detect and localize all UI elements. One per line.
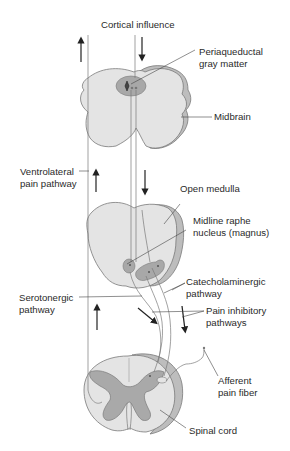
midbrain: [81, 66, 191, 149]
label-serotonergic-pathway: Serotonergic pathway: [19, 292, 73, 315]
label-catecholaminergic-pathway: Catecholaminergic pathway: [186, 276, 265, 299]
spinal-cord: [84, 354, 183, 434]
arrow-down-inhibitory: [182, 306, 185, 330]
medulla-body: [87, 202, 177, 288]
open-medulla: [87, 202, 184, 288]
leader-catecholaminergic-b: [172, 283, 185, 290]
label-spinal-cord: Spinal cord: [189, 425, 237, 437]
label-midbrain: Midbrain: [214, 111, 251, 123]
label-ventrolateral-pain-pathway: Ventrolateral pain pathway: [20, 166, 77, 189]
label-midline-raphe-nucleus: Midline raphe nucleus (magnus): [193, 215, 269, 238]
leader-serotonergic: [79, 296, 142, 297]
label-afferent-pain-fiber: Afferent pain fiber: [218, 375, 257, 398]
label-open-medulla: Open medulla: [180, 183, 240, 195]
label-periaqueductal-gray-matter: Periaqueductal gray matter: [199, 46, 263, 69]
dorsal-horn-synapse: [157, 377, 167, 383]
midline-raphe-nucleus: [123, 259, 135, 273]
label-pain-inhibitory-pathways: Pain inhibitory pathways: [206, 305, 266, 328]
label-cortical-influence: Cortical influence: [101, 19, 175, 31]
leader-pain-inhibitory-b: [182, 311, 204, 317]
leader-afferent: [204, 350, 218, 376]
